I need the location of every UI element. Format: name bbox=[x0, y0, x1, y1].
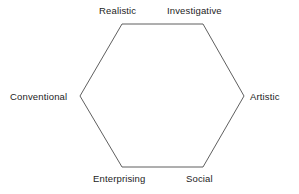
vertex-label-social: Social bbox=[186, 173, 213, 184]
vertex-label-enterprising: Enterprising bbox=[93, 173, 146, 184]
hexagon-outline bbox=[80, 24, 244, 167]
vertex-label-conventional: Conventional bbox=[10, 91, 67, 102]
vertex-label-investigative: Investigative bbox=[167, 5, 222, 16]
riasec-hexagon-diagram: Realistic Investigative Artistic Social … bbox=[0, 0, 299, 194]
vertex-label-realistic: Realistic bbox=[99, 5, 136, 16]
vertex-label-artistic: Artistic bbox=[250, 91, 280, 102]
